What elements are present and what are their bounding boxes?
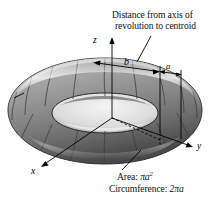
- torus-body: [8, 58, 202, 170]
- y-axis-label: y: [197, 141, 201, 151]
- major-radius-label: b: [124, 56, 129, 67]
- z-axis-arrowhead: [109, 37, 114, 44]
- distance-note-line-2: revolution to centroid: [112, 20, 196, 31]
- circumference-note: Circumference: 2πa: [109, 183, 184, 194]
- area-expression: πa: [140, 171, 149, 182]
- z-axis-label: z: [93, 35, 97, 45]
- area-exponent: 2: [150, 170, 153, 177]
- circumference-label: Circumference:: [109, 183, 167, 194]
- distance-note-line-1: Distance from axis of: [112, 9, 196, 20]
- x-axis-label: x: [31, 166, 35, 176]
- area-note: Area: πa2: [117, 171, 153, 182]
- circumference-expression: 2πa: [170, 183, 184, 194]
- area-label: Area:: [117, 171, 138, 182]
- distance-note-leader: [137, 36, 151, 62]
- y-axis-arrowhead: [186, 142, 193, 147]
- torus-diagram: Distance from axis of revolution to cent…: [0, 0, 221, 205]
- minor-radius-label: a: [166, 61, 170, 71]
- distance-note: Distance from axis of revolution to cent…: [112, 9, 196, 31]
